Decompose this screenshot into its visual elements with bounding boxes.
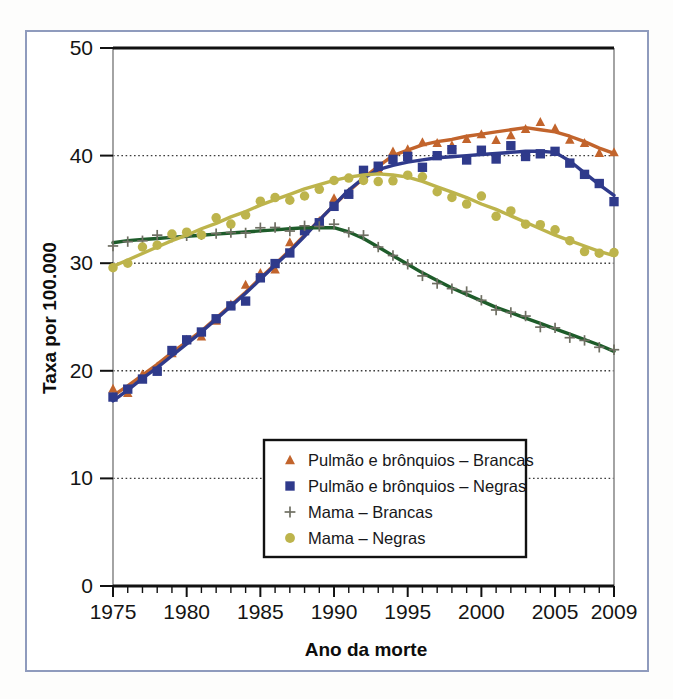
data-point [167, 346, 176, 355]
chart-legend: Pulmão e brônquios – BrancasPulmão e brô… [264, 440, 534, 557]
data-point [536, 149, 545, 158]
figure-root: 19751980198519901995200020052009 0102030… [0, 0, 673, 699]
series-line-2 [113, 228, 614, 352]
x-tick-label-2005: 2005 [532, 600, 579, 623]
data-point [521, 152, 530, 161]
data-point [388, 155, 397, 164]
data-point [123, 259, 133, 269]
x-tick-label-2009: 2009 [591, 600, 638, 623]
series-3 [108, 170, 619, 272]
x-axis-tick-labels: 19751980198519901995200020052009 [90, 600, 638, 623]
data-point [462, 199, 472, 209]
x-tick-label-1980: 1980 [163, 600, 210, 623]
legend-marker-circle [285, 533, 295, 543]
line-chart: 19751980198519901995200020052009 0102030… [0, 0, 673, 699]
data-point [491, 135, 501, 144]
series-line-1 [113, 151, 614, 401]
gridlines [113, 156, 614, 479]
data-point [609, 197, 618, 206]
data-point [418, 172, 428, 182]
y-tick-label-20: 20 [70, 359, 93, 382]
x-tick-label-1985: 1985 [237, 600, 284, 623]
data-point [565, 158, 574, 167]
data-point [256, 196, 266, 206]
y-axis-tick-labels: 01020304050 [70, 36, 93, 597]
x-tick-label-1995: 1995 [384, 600, 431, 623]
data-point [550, 123, 560, 132]
data-point [285, 196, 295, 206]
data-point [506, 307, 516, 317]
series-2 [108, 219, 619, 355]
data-point [241, 210, 251, 220]
data-point [226, 219, 236, 229]
data-point [536, 117, 546, 126]
data-point [329, 176, 339, 186]
y-axis-ticks [100, 48, 113, 586]
y-axis-title: Taxa por 100.000 [39, 242, 60, 394]
data-point [256, 273, 265, 282]
data-point [418, 137, 428, 146]
data-series-layer [108, 117, 619, 402]
data-point [491, 212, 501, 222]
data-point [211, 228, 221, 238]
data-point [344, 173, 354, 183]
data-point [226, 301, 235, 310]
data-point [491, 154, 500, 163]
series-0 [108, 117, 619, 397]
data-point [153, 367, 162, 376]
data-point [138, 374, 147, 383]
data-point [403, 170, 413, 180]
legend-label-3: Mama – Negras [308, 529, 425, 547]
data-point [270, 193, 280, 203]
x-axis-ticks [113, 586, 614, 597]
data-point [138, 242, 148, 252]
data-point [374, 162, 383, 171]
y-tick-label-50: 50 [70, 36, 93, 59]
legend-label-1: Pulmão e brônquios – Negras [308, 477, 526, 495]
data-point [285, 248, 294, 257]
data-point [108, 384, 118, 393]
data-point [211, 314, 220, 323]
data-point [344, 190, 353, 199]
legend-marker-square [285, 481, 294, 490]
x-tick-label-1975: 1975 [90, 600, 137, 623]
data-point [329, 202, 338, 211]
x-tick-label-2000: 2000 [458, 600, 505, 623]
data-point [462, 155, 471, 164]
data-point [300, 191, 310, 201]
data-point [270, 259, 279, 268]
data-point [506, 141, 515, 150]
data-point [344, 227, 354, 237]
x-axis-title: Ano da morte [305, 639, 427, 660]
data-point [550, 225, 560, 235]
data-point [108, 392, 117, 401]
data-point [197, 230, 207, 240]
data-point [182, 335, 191, 344]
data-point [609, 345, 619, 355]
data-point [403, 152, 412, 161]
series-line-3 [113, 174, 614, 267]
y-tick-label-0: 0 [81, 574, 93, 597]
data-point [580, 170, 589, 179]
data-point [477, 191, 487, 201]
data-point [521, 219, 531, 229]
data-point [359, 176, 369, 186]
y-tick-label-10: 10 [70, 466, 93, 489]
data-point [447, 145, 456, 154]
data-point [123, 384, 132, 393]
x-tick-label-1990: 1990 [311, 600, 358, 623]
y-tick-label-40: 40 [70, 144, 93, 167]
data-point [123, 236, 133, 246]
data-point [595, 248, 605, 258]
data-point [432, 151, 441, 160]
data-point [536, 220, 546, 230]
data-point [226, 227, 236, 237]
data-point [388, 146, 398, 155]
data-point [477, 146, 486, 155]
data-point [447, 193, 457, 203]
legend-label-0: Pulmão e brônquios – Brancas [308, 451, 534, 469]
data-point [108, 263, 118, 273]
data-point [506, 206, 515, 216]
data-point [550, 147, 559, 156]
data-point [241, 280, 251, 289]
